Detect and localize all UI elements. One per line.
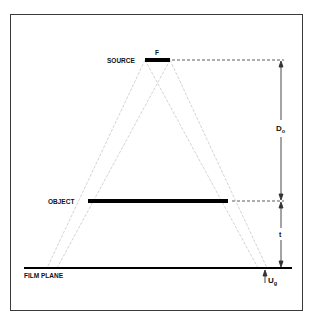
- geometric-unsharpness-diagram: F SOURCE OBJECT FILM PLANE Do t Ug: [0, 0, 315, 322]
- reference-dashes: [172, 60, 284, 201]
- ray-source-right-object-right: [170, 60, 267, 268]
- ray-lines: [47, 60, 267, 268]
- geometric-unsharpness-label: Ug: [268, 276, 277, 286]
- source-focal-spot: [145, 58, 170, 62]
- arrow-up-icon: [279, 202, 283, 208]
- arrow-up-icon: [263, 270, 267, 276]
- arrow-up-icon: [279, 61, 283, 67]
- object-bar: [88, 199, 228, 203]
- object-film-distance-label: t: [279, 231, 282, 238]
- object-label: OBJECT: [48, 198, 74, 205]
- arrow-down-icon: [279, 194, 283, 200]
- ray-source-right-object-left: [57, 60, 170, 268]
- ray-source-left-object-left: [47, 60, 145, 268]
- focal-spot-label: F: [155, 49, 159, 56]
- film-plane-line: [24, 267, 292, 269]
- source-object-distance-label: Do: [276, 124, 286, 134]
- geometric-unsharpness-indicator: [263, 270, 267, 283]
- film-plane-label: FILM PLANE: [24, 272, 64, 279]
- ray-source-left-object-right: [145, 60, 258, 268]
- arrow-down-icon: [279, 261, 283, 267]
- source-label: SOURCE: [107, 57, 135, 64]
